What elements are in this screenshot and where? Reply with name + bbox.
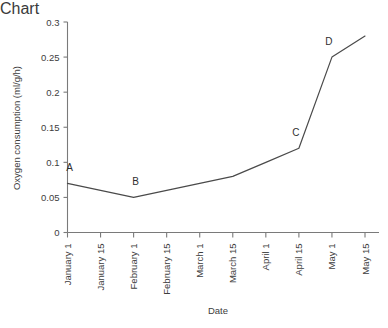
x-tick-label: February 1 — [128, 244, 139, 290]
x-axis-tick-marks — [68, 233, 366, 238]
x-axis-tick-labels: January 1January 15February 1February 15… — [62, 244, 371, 295]
x-tick-label: May 1 — [326, 244, 337, 270]
point-label-b: B — [132, 176, 139, 187]
y-tick-label: 0.2 — [46, 87, 59, 98]
x-tick-label: May 15 — [360, 244, 371, 275]
y-tick-label: 0.1 — [46, 157, 59, 168]
data-point-annotations: ABCD — [66, 36, 332, 187]
chart-svg: 00.050.10.150.20.250.3 January 1January … — [0, 0, 388, 328]
data-series-line — [68, 36, 366, 197]
x-tick-label: February 15 — [161, 244, 172, 295]
point-label-c: C — [292, 127, 299, 138]
x-tick-label: January 1 — [62, 244, 73, 286]
y-tick-label: 0.3 — [46, 17, 59, 28]
y-axis-title: Oxygen consumption (ml/g/h) — [11, 66, 22, 190]
y-axis-tick-labels: 00.050.10.150.20.250.3 — [41, 17, 60, 239]
y-tick-label: 0 — [54, 227, 59, 238]
x-tick-label: April 15 — [293, 244, 304, 276]
point-label-a: A — [66, 162, 73, 173]
x-tick-label: March 15 — [227, 244, 238, 284]
x-tick-label: April 1 — [260, 244, 271, 271]
y-tick-label: 0.25 — [41, 52, 60, 63]
x-tick-label: January 15 — [95, 244, 106, 291]
y-axis-tick-marks — [64, 22, 68, 233]
y-tick-label: 0.15 — [41, 122, 60, 133]
oxygen-consumption-line-chart: 00.050.10.150.20.250.3 January 1January … — [0, 0, 388, 328]
x-axis-title: Date — [208, 305, 228, 316]
x-tick-label: March 1 — [194, 244, 205, 278]
y-tick-label: 0.05 — [41, 192, 60, 203]
point-label-d: D — [325, 36, 332, 47]
